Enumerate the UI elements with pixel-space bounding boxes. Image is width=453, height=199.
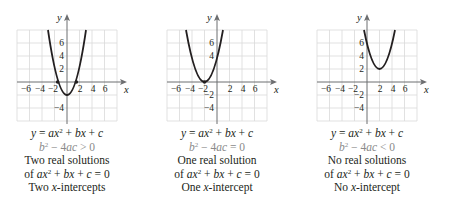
- svg-text:−2: −2: [354, 90, 364, 100]
- intercepts-text: No x-intercept: [300, 181, 434, 195]
- svg-text:−6: −6: [171, 84, 181, 94]
- svg-text:6: 6: [59, 38, 64, 48]
- x-axis-label: x: [423, 84, 429, 95]
- equation-text: y = ax2 + bx + c: [0, 127, 134, 141]
- y-axis-label: y: [56, 12, 62, 23]
- equation-text: y = ax2 + bx + c: [150, 127, 284, 141]
- y-axis-label: y: [356, 12, 362, 23]
- discriminant-text: b2 − 4ac = 0: [150, 141, 284, 155]
- discriminant-text: b2 − 4ac < 0: [300, 141, 434, 155]
- svg-text:2: 2: [78, 84, 83, 94]
- panel-no-solutions: x y −6 −4 −2 2 4 6 6 4 2 −2 −4 y = ax2 +…: [300, 0, 450, 199]
- graph-two-solutions: x y −6 −4 −2 2 4 6 6 4 2 −4: [0, 0, 150, 128]
- svg-text:−6: −6: [321, 84, 331, 94]
- svg-text:2: 2: [59, 64, 64, 74]
- discriminant-text: b2 − 4ac > 0: [0, 141, 134, 155]
- svg-text:−4: −4: [335, 84, 345, 94]
- svg-text:6: 6: [103, 84, 108, 94]
- panel-one-solution: x y −6 −4 −2 2 4 6 6 4 −2 −4 y = ax2 + b…: [150, 0, 300, 199]
- svg-text:6: 6: [253, 84, 258, 94]
- svg-text:−4: −4: [54, 103, 64, 113]
- intercepts-text: One x-intercept: [150, 181, 284, 195]
- svg-text:2: 2: [378, 84, 383, 94]
- svg-text:−6: −6: [21, 84, 31, 94]
- caption-two-solutions: y = ax2 + bx + c b2 − 4ac > 0 Two real s…: [0, 127, 134, 195]
- svg-text:2: 2: [228, 84, 233, 94]
- x-tick-labels: −6 −4 −2 2 4 6: [171, 84, 258, 94]
- x-intercept-point: [203, 80, 207, 84]
- x-tick-labels: −6 −4 −2 2 4 6: [21, 84, 108, 94]
- svg-text:6: 6: [403, 84, 408, 94]
- y-tick-labels: 6 4 −2 −4: [204, 38, 214, 113]
- caption-no-solutions: y = ax2 + bx + c b2 − 4ac < 0 No real so…: [300, 127, 434, 195]
- solutions-text: One real solution: [150, 154, 284, 168]
- y-tick-labels: 6 4 2 −4: [54, 38, 64, 113]
- svg-text:4: 4: [241, 84, 246, 94]
- svg-text:4: 4: [359, 51, 364, 61]
- graph-one-solution: x y −6 −4 −2 2 4 6 6 4 −2 −4: [150, 0, 300, 128]
- equation-zero-text: of ax2 + bx + c = 0: [0, 168, 134, 182]
- svg-text:6: 6: [209, 38, 214, 48]
- x-axis-label: x: [273, 84, 279, 95]
- svg-text:4: 4: [59, 51, 64, 61]
- svg-text:−4: −4: [204, 103, 214, 113]
- y-tick-labels: 6 4 2 −2 −4: [354, 38, 364, 113]
- panel-two-solutions: x y −6 −4 −2 2 4 6 6 4 2 −4 y = ax2 + bx…: [0, 0, 150, 199]
- svg-text:−4: −4: [354, 103, 364, 113]
- x-tick-labels: −6 −4 −2 2 4 6: [321, 84, 408, 94]
- svg-text:4: 4: [391, 84, 396, 94]
- svg-text:−4: −4: [35, 84, 45, 94]
- svg-text:−2: −2: [48, 84, 58, 94]
- x-intercept-point: [75, 80, 79, 84]
- graph-no-solutions: x y −6 −4 −2 2 4 6 6 4 2 −2 −4: [300, 0, 453, 128]
- equation-zero-text: of ax2 + bx + c = 0: [300, 168, 434, 182]
- x-axis-label: x: [123, 84, 129, 95]
- solutions-text: No real solutions: [300, 154, 434, 168]
- svg-text:6: 6: [359, 38, 364, 48]
- equation-text: y = ax2 + bx + c: [300, 127, 434, 141]
- svg-text:2: 2: [359, 64, 364, 74]
- svg-text:4: 4: [209, 51, 214, 61]
- x-intercept-point: [56, 80, 60, 84]
- equation-zero-text: of ax2 + bx + c = 0: [150, 168, 284, 182]
- caption-one-solution: y = ax2 + bx + c b2 − 4ac = 0 One real s…: [150, 127, 284, 195]
- intercepts-text: Two x-intercepts: [0, 181, 134, 195]
- solutions-text: Two real solutions: [0, 154, 134, 168]
- svg-text:4: 4: [91, 84, 96, 94]
- svg-text:−4: −4: [185, 84, 195, 94]
- svg-text:−2: −2: [204, 90, 214, 100]
- y-axis-label: y: [206, 12, 212, 23]
